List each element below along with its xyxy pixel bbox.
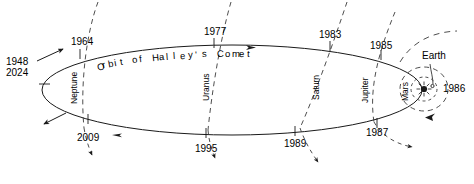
year-label-1985: 1985	[370, 40, 392, 51]
jupiter-orbit-arc	[373, 12, 395, 122]
sun-symbol-icon	[417, 82, 432, 97]
earth-leader-line	[430, 64, 433, 84]
year-label-1948: 1948	[6, 56, 28, 67]
uranus-orbit-arc	[208, 2, 231, 130]
flow-direction-arrow-upper-left	[37, 49, 63, 61]
halley-comet-orbit-diagram: 1948 2024 1964 1977 1983 1985 1986 1987 …	[0, 0, 474, 184]
year-label-1987: 1987	[366, 127, 388, 138]
body-label-earth: Earth	[422, 50, 446, 61]
saturn-orbit-arc	[300, 2, 347, 128]
planet-label-jupiter: Jupiter	[360, 77, 371, 103]
earth-marker	[431, 84, 434, 87]
year-label-1995: 1995	[195, 143, 217, 154]
planet-label-uranus: Uranus	[201, 74, 212, 101]
year-label-2009: 2009	[77, 132, 99, 143]
year-label-1986: 1986	[443, 83, 465, 94]
year-label-1964: 1964	[71, 36, 93, 47]
planet-label-neptune: Neptune	[69, 72, 80, 104]
year-label-1977: 1977	[204, 26, 226, 37]
year-label-aphelion: 1948 2024	[6, 56, 28, 78]
year-label-1983: 1983	[319, 29, 341, 40]
year-label-1989: 1989	[284, 138, 306, 149]
flow-direction-arrow-lower-left	[44, 113, 66, 124]
planet-label-mars: Mars	[400, 82, 411, 101]
orbit-direction-arrows	[112, 45, 435, 137]
year-label-2024: 2024	[6, 67, 28, 78]
neptune-orbit-arc	[83, 2, 98, 128]
planet-label-saturn: Saturn	[311, 75, 322, 100]
